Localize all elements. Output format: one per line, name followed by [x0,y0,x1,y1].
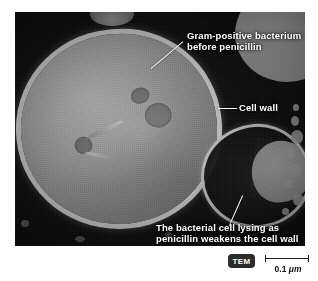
scale-bar-line [265,258,309,259]
figure-footer: TEM 0.1 μm [0,248,318,281]
annotation-cell-wall: Cell wall [239,103,278,114]
annotation-cell-wall-text: Cell wall [239,102,278,113]
scale-bar-cap-right [308,255,309,262]
annotation-lysing: The bacterial cell lysing as penicillin … [156,223,305,244]
scale-bar-cap-left [265,255,266,262]
scale-bar-unit: μm [289,264,302,274]
scale-bar-value: 0.1 [275,264,287,274]
scale-bar [265,255,309,261]
leader-line-cell-wall [218,108,237,109]
scale-bar-label: 0.1 μm [263,264,313,274]
annotation-gram-positive-text: Gram-positive bacterium before penicilli… [187,30,301,52]
tem-figure: Gram-positive bacterium before penicilli… [0,0,318,281]
technique-badge-label: TEM [232,257,250,266]
micrograph-image: Gram-positive bacterium before penicilli… [15,12,305,246]
annotation-lysing-text: The bacterial cell lysing as penicillin … [156,222,299,244]
technique-badge: TEM [228,254,255,268]
annotation-gram-positive: Gram-positive bacterium before penicilli… [187,31,305,52]
